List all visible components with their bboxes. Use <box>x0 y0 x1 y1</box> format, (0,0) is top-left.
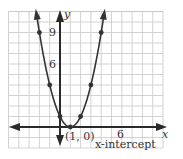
x-intercept-label: x-intercept <box>95 138 156 151</box>
y-axis-label: y <box>63 8 71 21</box>
data-point <box>68 125 73 130</box>
x-axis-label: x <box>162 128 169 141</box>
vertex-label: (1, 0) <box>65 130 95 143</box>
data-point <box>89 83 94 88</box>
y-axis-down-arrow-icon <box>56 135 64 146</box>
data-point <box>47 83 52 88</box>
data-point <box>58 114 63 119</box>
parabola-graph: y x 9 6 6 (1, 0) x-intercept <box>0 0 183 159</box>
y-axis <box>56 10 64 146</box>
x-axis-left-arrow-icon <box>9 123 20 131</box>
data-point <box>99 30 104 35</box>
y-tick-6: 6 <box>49 58 56 71</box>
y-tick-9: 9 <box>49 26 56 39</box>
data-point <box>37 30 42 35</box>
data-point <box>78 114 83 119</box>
